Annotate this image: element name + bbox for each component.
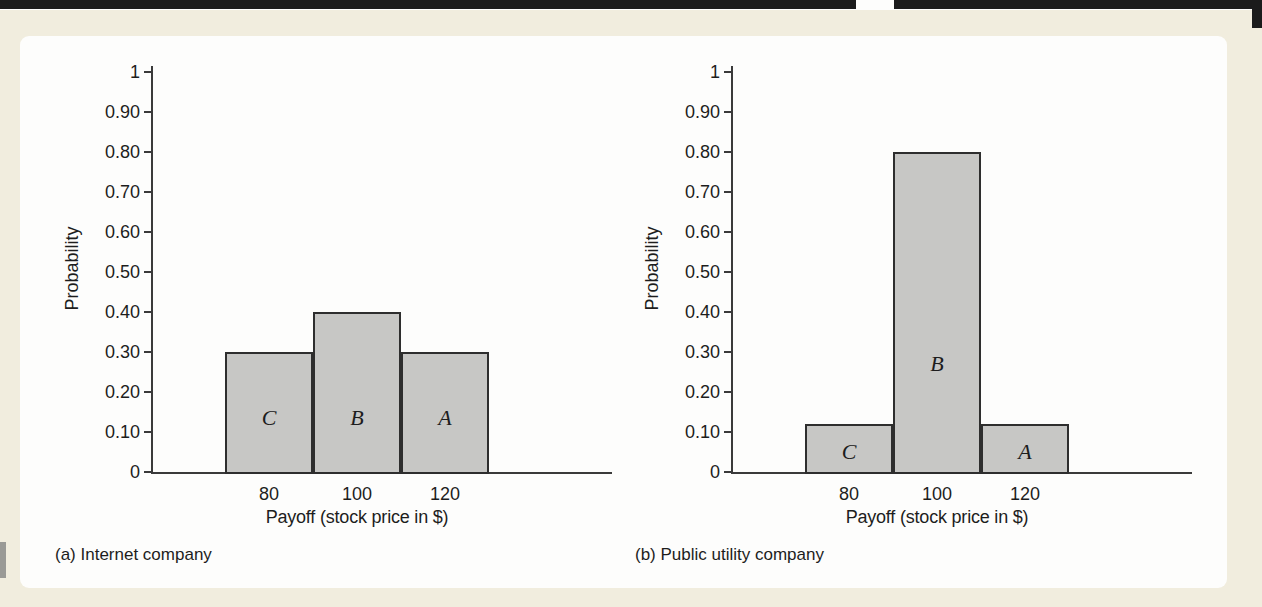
y-tick-mark [144,191,153,193]
y-tick-label: 0.90 [658,102,720,122]
y-tick-label: 0.50 [78,262,140,282]
y-tick-mark [724,111,733,113]
y-tick-label: 0.40 [658,302,720,322]
bar [313,312,401,474]
y-tick-label: 0.40 [78,302,140,322]
y-tick-label: 0.50 [658,262,720,282]
y-tick-label: 0.20 [78,382,140,402]
y-tick-mark [724,271,733,273]
bar-label: A [401,405,489,431]
bar [893,152,981,474]
y-tick-mark [144,151,153,153]
y-tick-mark [724,71,733,73]
x-axis-title: Payoff (stock price in $) [777,507,1097,528]
y-tick-mark [724,471,733,473]
y-tick-mark [144,351,153,353]
chart-caption: (a) Internet company [55,545,212,565]
y-tick-label: 0.60 [78,222,140,242]
y-tick-label: 1 [78,62,140,82]
y-tick-mark [144,231,153,233]
chart-caption: (b) Public utility company [635,545,824,565]
page-edge-mark [1252,0,1262,28]
bar-label: C [225,405,313,431]
y-tick-label: 0 [78,462,140,482]
x-tick-label: 120 [961,483,1089,505]
y-tick-mark [144,71,153,73]
y-tick-mark [144,391,153,393]
y-tick-label: 0.70 [658,182,720,202]
y-tick-mark [144,271,153,273]
y-tick-mark [144,431,153,433]
y-tick-label: 0.20 [658,382,720,402]
y-axis-line [731,66,733,474]
chart-public-utility-company: Probability Payoff (stock price in $) (b… [580,0,1212,607]
y-tick-mark [144,111,153,113]
figure-scan: Probability Payoff (stock price in $) (a… [0,0,1262,607]
x-axis-title: Payoff (stock price in $) [197,507,517,528]
bar-label: C [805,439,893,465]
y-tick-label: 0.10 [78,422,140,442]
y-tick-label: 0.80 [658,142,720,162]
y-tick-label: 0.60 [658,222,720,242]
y-tick-mark [724,431,733,433]
chart-internet-company: Probability Payoff (stock price in $) (a… [0,0,632,607]
bar-label: B [313,405,401,431]
y-tick-mark [724,351,733,353]
y-tick-mark [144,471,153,473]
y-tick-label: 0.70 [78,182,140,202]
y-tick-mark [724,311,733,313]
y-tick-label: 1 [658,62,720,82]
y-tick-label: 0.10 [658,422,720,442]
y-tick-label: 0.80 [78,142,140,162]
bar-label: A [981,439,1069,465]
y-tick-label: 0.30 [78,342,140,362]
bar-label: B [893,351,981,377]
y-tick-mark [144,311,153,313]
y-tick-label: 0.30 [658,342,720,362]
x-tick-label: 120 [381,483,509,505]
y-axis-line [151,66,153,474]
y-tick-mark [724,391,733,393]
y-tick-label: 0 [658,462,720,482]
y-tick-mark [724,151,733,153]
y-tick-label: 0.90 [78,102,140,122]
y-tick-mark [724,231,733,233]
y-tick-mark [724,191,733,193]
